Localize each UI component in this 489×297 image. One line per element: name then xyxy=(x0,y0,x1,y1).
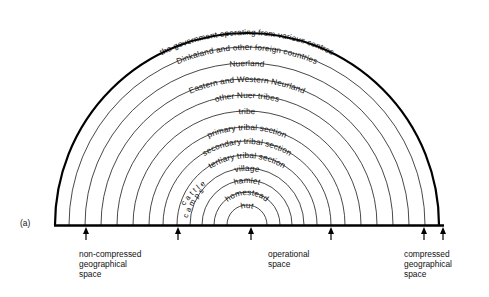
caption-compressed-space: compressed geographical space xyxy=(404,249,452,280)
figure-container: the government operating from various ce… xyxy=(0,0,489,297)
axis-arrow-3 xyxy=(248,227,254,240)
axis-arrow-2 xyxy=(175,227,181,240)
caption-operational-space: operational space xyxy=(268,249,309,269)
axis-arrow-6 xyxy=(440,227,446,240)
ring-label-11: hamlet xyxy=(233,176,262,187)
caption-non-compressed-space: non-compressed geographical space xyxy=(79,249,141,280)
ring-label-3: Nuerland xyxy=(229,59,265,69)
ring-label-13: hut xyxy=(240,201,255,211)
axis-arrow-4 xyxy=(328,227,334,240)
axis-arrow-5 xyxy=(421,227,427,240)
ring-label-10: village xyxy=(234,164,261,174)
ring-label-1: the government operating from various ce… xyxy=(159,28,336,57)
ring-arc-2 xyxy=(69,47,425,225)
ring-labels: the government operating from various ce… xyxy=(159,28,336,211)
cattle-camps-labels: c a t t l e c a m p s xyxy=(179,179,207,219)
ring-label-6: tribe xyxy=(238,107,256,116)
axis-arrows xyxy=(83,227,446,240)
axis-arrow-1 xyxy=(83,227,89,240)
panel-label: (a) xyxy=(20,218,30,228)
